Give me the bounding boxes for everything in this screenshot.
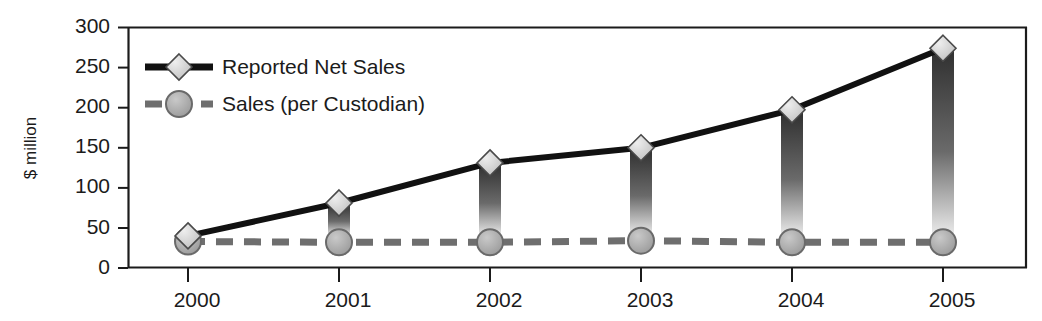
connector-bar [781,110,803,236]
sales-line-chart: 300 250 200 150 100 50 0 $ million 2000 … [0,0,1042,321]
y-tick-label: 250 [75,54,110,77]
x-tick-label: 2004 [778,288,825,311]
custodian-point [477,229,503,255]
x-tick-label: 2005 [929,288,976,311]
circle-marker-icon [166,91,192,117]
legend-item-sales-per-custodian: Sales (per Custodian) [145,91,425,117]
x-tick-label: 2002 [476,288,523,311]
y-tick-label: 50 [87,215,110,238]
y-tick-label: 0 [98,255,110,278]
custodian-point [326,229,352,255]
legend-label: Sales (per Custodian) [222,92,425,115]
x-tick-label: 2000 [174,288,221,311]
custodian-point [628,228,654,254]
y-tick-label: 300 [75,14,110,37]
y-tick-label: 100 [75,174,110,197]
custodian-point [930,229,956,255]
chart-container: 300 250 200 150 100 50 0 $ million 2000 … [0,0,1042,321]
custodian-point [779,229,805,255]
y-tick-label: 150 [75,134,110,157]
connector-bar [932,48,954,236]
x-tick-label: 2003 [627,288,674,311]
y-tick-label: 200 [75,94,110,117]
legend-label: Reported Net Sales [222,55,405,78]
x-tick-label: 2001 [325,288,372,311]
y-axis-title: $ million [21,117,40,179]
